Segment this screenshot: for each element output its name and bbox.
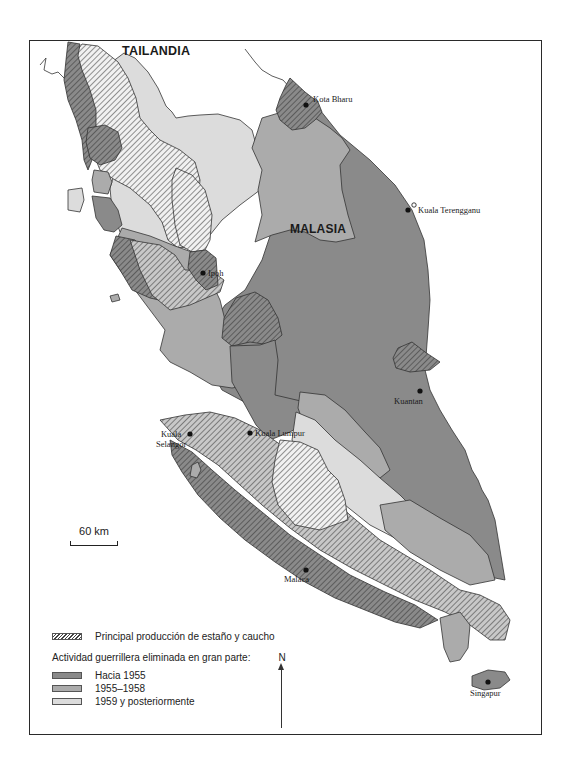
city-label-kuala-selangor: Kuala Selangor (156, 429, 186, 449)
mid-gray-swatch-icon (52, 685, 82, 692)
city-label-malaca: Malaca (284, 574, 309, 584)
scale-bar: 60 km (70, 525, 118, 546)
north-label: N (275, 652, 289, 663)
city-marker-singapur (485, 679, 490, 684)
legend-label: 1959 y posteriormente (95, 696, 195, 707)
city-marker-kota-bharu (303, 102, 308, 107)
north-arrow-shaft (281, 665, 282, 728)
legend: Principal producción de estaño y caucho … (52, 630, 275, 708)
city-marker-kuala-lumpur (247, 430, 252, 435)
city-label-kuala-lumpur: Kuala Lumpur (255, 428, 305, 438)
city-label-kuantan: Kuantan (394, 396, 423, 406)
city-marker-kuala-terengganu (405, 207, 410, 212)
city-marker-kuala-terengganu-open (412, 203, 416, 207)
city-label-singapur: Singapur (470, 688, 501, 698)
light-gray-swatch-icon (52, 698, 82, 705)
city-marker-malaca (303, 567, 308, 572)
region-singapore (472, 670, 510, 690)
legend-item-1955-1958: 1955–1958 (52, 682, 275, 695)
legend-label: Hacia 1955 (95, 670, 146, 681)
city-label-kota-bharu: Kota Bharu (313, 94, 352, 104)
legend-label: 1955–1958 (95, 683, 145, 694)
city-label-kuala-selangor-line2: Selangor (156, 439, 186, 449)
legend-item-1959: 1959 y posteriormente (52, 695, 275, 708)
city-label-kuala-selangor-line1: Kuala (156, 429, 186, 439)
legend-item-hatch: Principal producción de estaño y caucho (52, 630, 275, 643)
dark-gray-swatch-icon (52, 672, 82, 679)
country-label-malaysia: MALASIA (290, 222, 346, 236)
hatch-swatch-icon (52, 633, 82, 640)
island-langkawi (68, 188, 84, 212)
scale-label: 60 km (70, 525, 118, 537)
region-1955-1958-west-1 (92, 170, 112, 194)
city-label-kuala-terengganu: Kuala Terengganu (418, 205, 480, 215)
country-label-thailand: TAILANDIA (122, 44, 190, 58)
legend-hatch-label: Principal producción de estaño y caucho (95, 631, 275, 642)
island-pangkor (110, 294, 120, 302)
region-johor-south (440, 612, 470, 662)
city-label-ipoh: Ipoh (208, 268, 224, 278)
legend-heading: Actividad guerrillera eliminada en gran … (52, 652, 275, 665)
city-marker-kuantan (417, 388, 422, 393)
city-marker-ipoh (200, 270, 205, 275)
legend-item-hacia-1955: Hacia 1955 (52, 669, 275, 682)
city-marker-kuala-selangor (187, 431, 192, 436)
scale-bar-line (70, 541, 118, 546)
